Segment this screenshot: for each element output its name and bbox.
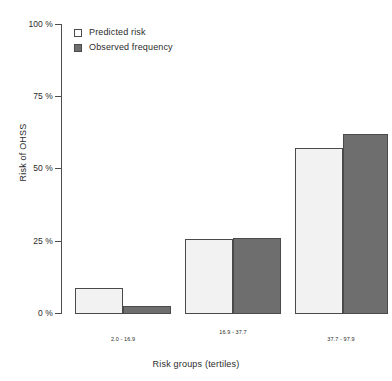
bar-predicted-group2 (185, 239, 233, 314)
bar-observed-group3 (343, 134, 388, 314)
y-tick-label-75: 75 % (5, 92, 53, 101)
y-tick-25: 25 % (0, 237, 53, 246)
legend-item-observed: Observed frequency (74, 41, 173, 54)
y-tick-mark-50 (55, 168, 61, 169)
y-tick-mark-0 (55, 313, 61, 314)
bar-predicted-group3 (295, 148, 343, 314)
y-tick-0: 0 % (0, 309, 53, 318)
x-tick-label-group2: 16.9 - 37.7 (183, 329, 283, 335)
legend-swatch-observed-icon (74, 44, 82, 52)
legend: Predicted risk Observed frequency (74, 26, 173, 56)
y-tick-75: 75 % (0, 92, 53, 101)
bar-chart: 100 % 75 % 50 % 25 % 0 % Risk of OHSS Pr… (0, 0, 392, 381)
legend-item-predicted: Predicted risk (74, 26, 173, 39)
legend-label-observed: Observed frequency (89, 43, 173, 52)
y-tick-label-25: 25 % (5, 237, 53, 246)
y-axis-line (61, 24, 62, 314)
bar-predicted-group1 (75, 288, 123, 314)
x-tick-label-group1: 2.0 - 16.9 (73, 336, 173, 342)
y-axis-title: Risk of OHSS (19, 103, 28, 203)
legend-label-predicted: Predicted risk (89, 28, 146, 37)
bar-observed-group2 (233, 238, 281, 314)
x-axis-title: Risk groups (tertiles) (0, 360, 392, 369)
bar-observed-group1 (123, 306, 171, 314)
y-tick-mark-75 (55, 96, 61, 97)
y-tick-mark-100 (55, 24, 61, 25)
y-tick-label-0: 0 % (5, 309, 53, 318)
y-tick-100: 100 % (0, 20, 53, 29)
x-tick-label-group3: 37.7 - 97.9 (291, 336, 391, 342)
y-tick-mark-25 (55, 241, 61, 242)
y-tick-label-50: 50 % (5, 164, 53, 173)
legend-swatch-predicted-icon (74, 29, 82, 37)
y-tick-label-100: 100 % (5, 20, 53, 29)
